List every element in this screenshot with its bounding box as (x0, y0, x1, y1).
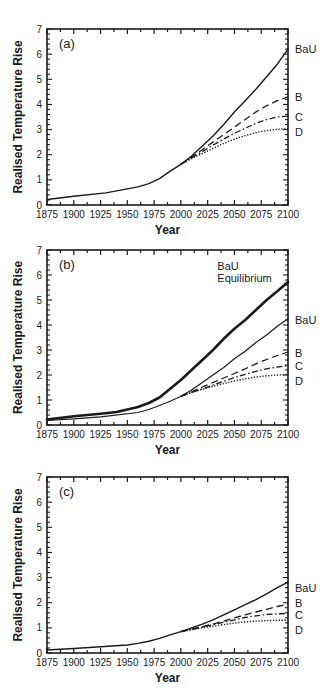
y-tick-label: 5 (36, 522, 42, 533)
y-tick-label: 0 (36, 648, 42, 659)
series-label-d: D (295, 624, 303, 636)
series-c (181, 116, 288, 164)
x-tick-label: 1875 (36, 209, 59, 220)
series-bau (47, 582, 288, 650)
x-tick-label: 1950 (116, 209, 139, 220)
y-tick-label: 3 (36, 345, 42, 356)
y-tick-label: 1 (36, 395, 42, 406)
series-group (47, 49, 288, 199)
y-tick-label: 7 (36, 245, 42, 256)
x-tick-label: 2025 (197, 429, 220, 440)
series-b (181, 97, 288, 164)
y-tick-label: 0 (36, 200, 42, 211)
series-bau-equilibrium (47, 282, 288, 420)
y-tick-label: 2 (36, 149, 42, 160)
x-tick-label: 2075 (250, 429, 273, 440)
series-label-b: B (295, 347, 302, 359)
y-axis: 01234567 (36, 24, 288, 211)
x-tick-label: 2075 (250, 209, 273, 220)
annotation-label: BaU (217, 260, 238, 272)
y-tick-label: 1 (36, 622, 42, 633)
series-b (181, 604, 288, 632)
x-tick-label: 1900 (63, 657, 86, 668)
series-c (181, 614, 288, 632)
x-tick-label: 2050 (223, 209, 246, 220)
y-axis: 01234567 (36, 472, 288, 659)
series-label-d: D (295, 375, 303, 387)
y-tick-label: 7 (36, 24, 42, 35)
panel-c: 1875190019251950197520002025205020752100… (11, 472, 316, 686)
plot-frame (47, 29, 288, 205)
y-tick-label: 0 (36, 420, 42, 431)
series-d (181, 129, 288, 165)
x-tick-label: 1875 (36, 657, 59, 668)
series-d (181, 375, 288, 397)
annotation-label: Equilibrium (217, 272, 271, 284)
y-tick-label: 2 (36, 597, 42, 608)
y-tick-label: 6 (36, 497, 42, 508)
x-tick-label: 2050 (223, 657, 246, 668)
y-axis-title: Realised Temperature Rise (11, 488, 25, 642)
series-group (47, 582, 288, 650)
x-axis: 1875190019251950197520002025205020752100 (36, 477, 300, 668)
series-label-d: D (295, 126, 303, 138)
x-tick-label: 1975 (143, 657, 166, 668)
series-label-c: C (295, 609, 303, 621)
x-tick-label: 1900 (63, 209, 86, 220)
x-tick-label: 2000 (170, 209, 193, 220)
x-tick-label: 1900 (63, 429, 86, 440)
series-bau (47, 49, 288, 199)
x-tick-label: 1975 (143, 209, 166, 220)
series-label-c: C (295, 360, 303, 372)
x-tick-label: 1925 (89, 429, 112, 440)
x-tick-label: 2100 (277, 429, 300, 440)
x-tick-label: 1875 (36, 429, 59, 440)
y-tick-label: 6 (36, 270, 42, 281)
series-bau (47, 319, 288, 421)
x-tick-label: 2000 (170, 657, 193, 668)
panel-label: (c) (59, 484, 74, 499)
y-tick-label: 3 (36, 572, 42, 583)
x-tick-label: 2100 (277, 657, 300, 668)
x-tick-label: 1925 (89, 657, 112, 668)
y-tick-label: 6 (36, 49, 42, 60)
x-tick-label: 2025 (197, 657, 220, 668)
x-tick-label: 2025 (197, 209, 220, 220)
x-tick-label: 1950 (116, 657, 139, 668)
panel-b: 1875190019251950197520002025205020752100… (11, 245, 316, 458)
x-axis-title: Year (155, 443, 181, 457)
panel-a: 1875190019251950197520002025205020752100… (11, 24, 316, 238)
y-tick-label: 3 (36, 124, 42, 135)
series-group (47, 282, 288, 421)
series-label-bau: BaU (295, 314, 316, 326)
x-axis-title: Year (155, 223, 181, 237)
series-label-bau: BaU (295, 582, 316, 594)
panel-label: (a) (59, 36, 75, 51)
y-axis-title: Realised Temperature Rise (11, 40, 25, 194)
series-label-c: C (295, 111, 303, 123)
x-tick-label: 1925 (89, 209, 112, 220)
panel-label: (b) (59, 257, 75, 272)
y-tick-label: 4 (36, 547, 42, 558)
x-tick-label: 1950 (116, 429, 139, 440)
y-tick-label: 1 (36, 174, 42, 185)
x-tick-label: 2000 (170, 429, 193, 440)
y-tick-label: 4 (36, 99, 42, 110)
y-axis-title: Realised Temperature Rise (11, 261, 25, 415)
y-tick-label: 2 (36, 370, 42, 381)
x-axis-title: Year (155, 671, 181, 685)
x-tick-label: 2050 (223, 429, 246, 440)
x-tick-label: 1975 (143, 429, 166, 440)
x-tick-label: 2075 (250, 657, 273, 668)
x-tick-label: 2100 (277, 209, 300, 220)
series-label-bau: BaU (295, 43, 316, 55)
series-label-b: B (295, 91, 302, 103)
y-tick-label: 7 (36, 472, 42, 483)
x-axis: 1875190019251950197520002025205020752100 (36, 29, 300, 220)
series-label-b: B (295, 597, 302, 609)
plot-frame (47, 477, 288, 653)
figure: 1875190019251950197520002025205020752100… (0, 0, 332, 697)
y-tick-label: 5 (36, 295, 42, 306)
y-tick-label: 4 (36, 320, 42, 331)
y-tick-label: 5 (36, 74, 42, 85)
